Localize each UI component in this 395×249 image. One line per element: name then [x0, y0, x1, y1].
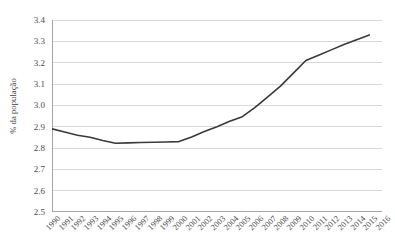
y-axis-tick-label: 3.2	[34, 58, 45, 68]
y-axis-tick-label: 2.9	[34, 122, 45, 132]
y-axis-title-label: % da população	[8, 78, 18, 134]
x-axis-tick-labels: 1990199119921993199419951996199719981999…	[52, 214, 382, 249]
y-axis-tick-label: 2.8	[34, 143, 45, 153]
y-axis-tick-label: 3.1	[34, 79, 45, 89]
y-axis-tick-label: 2.7	[34, 164, 45, 174]
y-axis-tick-label: 2.6	[34, 186, 45, 196]
y-axis-title: % da população	[2, 0, 24, 212]
y-axis-tick-label: 3.0	[34, 100, 45, 110]
plot-svg	[52, 20, 382, 212]
plot-area	[52, 20, 382, 212]
y-axis-tick-label: 3.3	[34, 36, 45, 46]
y-axis-tick-label: 2.5	[34, 207, 45, 217]
y-axis-tick-labels: 3.43.33.23.13.02.92.82.72.62.5	[22, 20, 48, 212]
y-axis-tick-label: 3.4	[34, 15, 45, 25]
line-chart: % da população 3.43.33.23.13.02.92.82.72…	[0, 0, 395, 249]
